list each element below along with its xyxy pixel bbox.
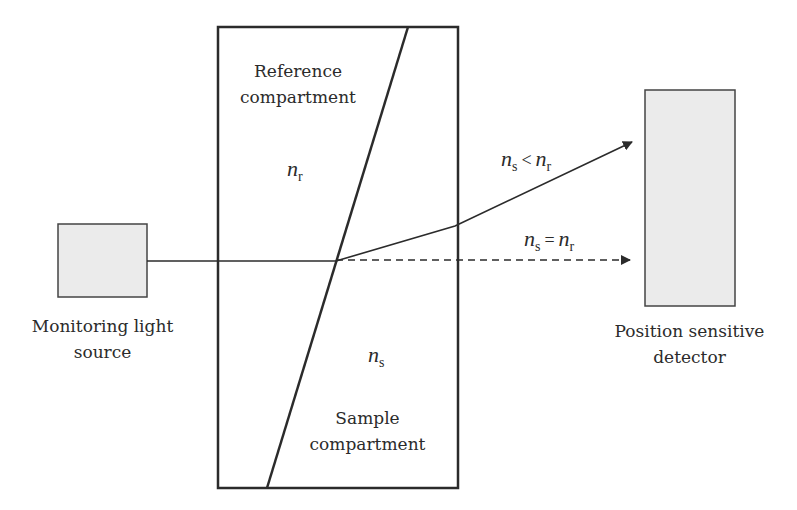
straight-lhs: n [524, 226, 535, 251]
sample-compartment-label: Sample compartment [300, 405, 435, 457]
deflected-rhs-sub: r [547, 159, 552, 174]
reference-index: nr [287, 156, 303, 185]
detector-label: Position sensitive detector [602, 318, 777, 370]
straight-ray-condition: ns=nr [524, 226, 574, 255]
light-source-label: Monitoring light source [20, 313, 185, 365]
light-source-label-line2: source [20, 339, 185, 365]
reference-label-line1: Reference [233, 58, 363, 84]
light-source-label-line1: Monitoring light [20, 313, 185, 339]
straight-rhs: n [559, 226, 570, 251]
deflected-ray-condition: ns<nr [501, 146, 551, 175]
detector-label-line1: Position sensitive [602, 318, 777, 344]
deflected-ray [336, 142, 632, 261]
detector-label-line2: detector [602, 344, 777, 370]
deflected-lhs: n [501, 146, 512, 171]
reference-index-sub: r [298, 169, 303, 184]
sample-label-line1: Sample [300, 405, 435, 431]
straight-operator: = [544, 230, 554, 250]
reference-index-symbol: n [287, 156, 298, 181]
sample-label-line2: compartment [300, 431, 435, 457]
deflected-operator: < [521, 150, 531, 170]
straight-lhs-sub: s [535, 239, 540, 254]
light-source-box [58, 224, 147, 297]
deflected-lhs-sub: s [512, 159, 517, 174]
sample-index-sub: s [379, 355, 384, 370]
detector-box [645, 90, 735, 306]
reference-label-line2: compartment [233, 84, 363, 110]
reference-compartment-label: Reference compartment [233, 58, 363, 110]
sample-index: ns [368, 342, 384, 371]
sample-index-symbol: n [368, 342, 379, 367]
straight-rhs-sub: r [570, 239, 575, 254]
deflected-rhs: n [536, 146, 547, 171]
